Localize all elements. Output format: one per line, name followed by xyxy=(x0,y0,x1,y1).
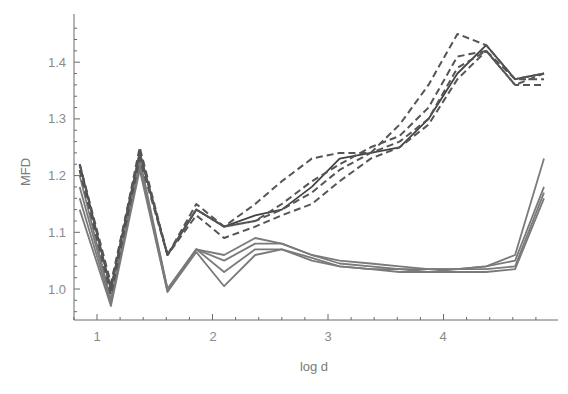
y-tick-label-1.1: 1.1 xyxy=(48,225,66,240)
x-tick-label-1: 1 xyxy=(93,329,100,344)
x-tick-label-4: 4 xyxy=(439,329,446,344)
y-tick-label-1.0: 1.0 xyxy=(48,282,66,297)
y-tick-label-1.4: 1.4 xyxy=(48,55,66,70)
chart: 1.4 1.3 1.2 1.1 1.0 1 2 3 4 log d MFD xyxy=(0,0,568,394)
x-ticks xyxy=(74,314,536,320)
y-axis-title: MFD xyxy=(18,158,33,186)
x-axis-title: log d xyxy=(300,359,328,374)
series-line-dashed-1 xyxy=(80,34,544,283)
series-line-dashed-3 xyxy=(80,51,544,289)
series-line-dashed-2 xyxy=(80,51,544,289)
x-tick-label-2: 2 xyxy=(209,329,216,344)
y-ticks xyxy=(74,28,80,312)
axes xyxy=(74,14,558,320)
x-tick-label-3: 3 xyxy=(324,329,331,344)
series-line-solid-dark xyxy=(80,45,544,289)
series-line-solid-1 xyxy=(80,159,544,301)
y-tick-label-1.3: 1.3 xyxy=(48,111,66,126)
y-tick-label-1.2: 1.2 xyxy=(48,168,66,183)
plot-lines xyxy=(80,34,544,306)
